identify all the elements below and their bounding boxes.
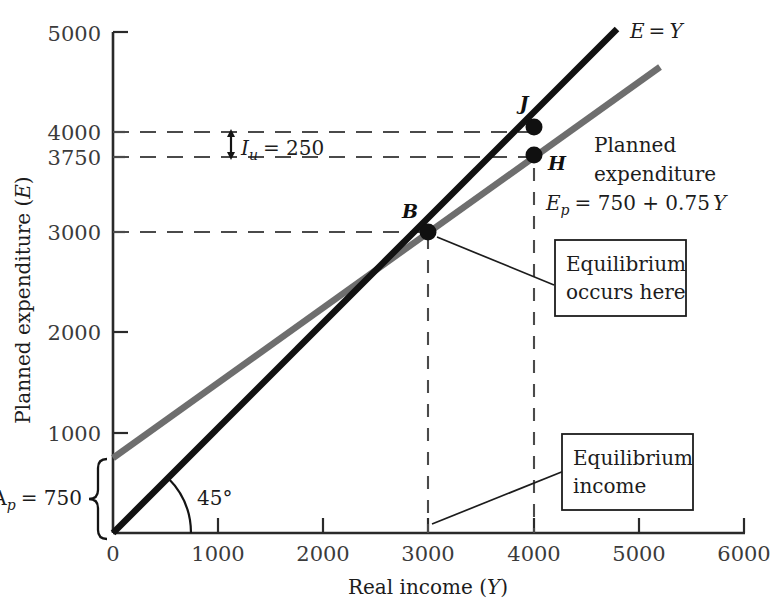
ep-equation: = 750 + 0.75	[575, 191, 710, 215]
x-tick-label-2000: 2000	[296, 542, 349, 566]
x-tick-label-5000: 5000	[612, 542, 665, 566]
x-tick-label-6000: 6000	[717, 542, 770, 566]
y-tick-label-2000: 2000	[48, 321, 101, 345]
y-axis-title-var: E	[11, 184, 35, 200]
callout-income-line1: Equilibrium	[573, 446, 693, 470]
x-axis-title-end: )	[500, 575, 508, 599]
iu-equation: = 250	[263, 136, 324, 160]
point-b-marker[interactable]	[420, 224, 437, 241]
x-tick-label-0: 0	[106, 542, 119, 566]
line-label-e-equals-y: E=Y	[629, 19, 684, 43]
angle-label: 45°	[197, 486, 232, 510]
point-h-label: H	[547, 152, 567, 174]
label-Y: Y	[669, 19, 684, 43]
iu-subscript: u	[249, 147, 258, 163]
callout-income-line2: income	[573, 474, 646, 498]
y-axis-title: Planned expenditure (E)	[11, 176, 35, 423]
svg-text:Planned expenditure (E): Planned expenditure (E)	[11, 176, 35, 423]
svg-text:Real income (Y): Real income (Y)	[348, 575, 508, 599]
y-tick-label-4000: 4000	[48, 121, 101, 145]
planned-expenditure-line1: Planned	[594, 133, 676, 157]
svg-text:E=Y: E=Y	[629, 19, 684, 43]
ep-variable: E	[545, 191, 561, 215]
point-h-marker[interactable]	[526, 147, 543, 164]
callout-occurs-line2: occurs here	[566, 280, 686, 304]
x-axis-title: Real income (Y)	[348, 575, 508, 599]
ap-subscript: p	[7, 497, 16, 513]
y-tick-label-3000: 3000	[48, 221, 101, 245]
y-axis-title-end: )	[11, 176, 35, 184]
keynesian-cross-figure: 5000 4000 3750 3000 2000 1000 0 1000 200…	[0, 0, 782, 607]
point-j-marker[interactable]	[526, 119, 543, 136]
ap-equation: = 750	[21, 486, 82, 510]
x-tick-label-4000: 4000	[507, 542, 560, 566]
callout-occurs-line1: Equilibrium	[566, 252, 686, 276]
point-j-label: J	[517, 92, 531, 114]
x-tick-label-1000: 1000	[191, 542, 244, 566]
y-tick-label-3750: 3750	[48, 146, 101, 170]
point-b-label: B	[401, 200, 418, 222]
ep-Y: Y	[713, 191, 728, 215]
x-tick-label-3000: 3000	[401, 542, 454, 566]
planned-expenditure-line2: expenditure	[594, 162, 716, 186]
y-axis-title-main: Planned expenditure (	[11, 199, 35, 424]
x-axis-title-main: Real income (	[348, 575, 487, 599]
label-E: E	[629, 19, 645, 43]
ep-subscript: p	[561, 202, 570, 218]
y-tick-label-5000: 5000	[48, 22, 101, 46]
y-tick-label-1000: 1000	[48, 422, 101, 446]
label-equals: =	[649, 19, 666, 43]
figure-svg: 5000 4000 3750 3000 2000 1000 0 1000 200…	[0, 0, 782, 607]
